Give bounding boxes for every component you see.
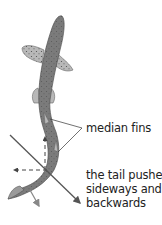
tail-push-label: the tail pushes sideways and backwards bbox=[86, 168, 162, 210]
pectoral-fin-left bbox=[22, 46, 44, 63]
tail-push-label-line-2: sideways and bbox=[86, 182, 162, 196]
tail-backwards-arrow bbox=[30, 190, 39, 206]
tail-push-label-line-1: the tail pushes bbox=[86, 168, 162, 182]
tail-push-label-line-3: backwards bbox=[86, 196, 162, 210]
fish-body bbox=[8, 16, 64, 199]
median-fins-label: median fins bbox=[86, 121, 151, 135]
